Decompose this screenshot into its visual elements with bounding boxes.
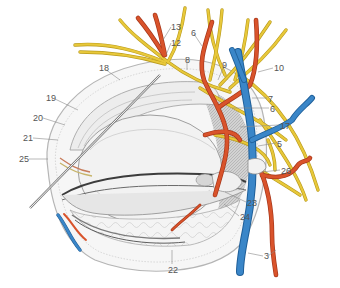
label-3: 3 [264, 251, 269, 261]
label-23: 23 [247, 198, 257, 208]
label-25: 25 [19, 154, 29, 164]
label-5: 5 [277, 139, 282, 149]
label-10: 10 [274, 63, 284, 73]
label-17: 17 [280, 121, 290, 131]
label-6-upper: 6 [191, 28, 196, 38]
label-8: 8 [185, 55, 190, 65]
label-9: 9 [222, 60, 227, 70]
label-18: 18 [99, 63, 109, 73]
label-21: 21 [23, 133, 33, 143]
label-7: 7 [268, 94, 273, 104]
label-13: 13 [171, 22, 181, 32]
orbit-anatomy-illustration [0, 0, 340, 288]
label-22: 22 [168, 265, 178, 275]
label-12: 12 [171, 38, 181, 48]
label-19: 19 [46, 93, 56, 103]
label-6-lower: 6 [270, 104, 275, 114]
label-20: 20 [33, 113, 43, 123]
label-24: 24 [240, 212, 250, 222]
label-26: 26 [281, 166, 291, 176]
